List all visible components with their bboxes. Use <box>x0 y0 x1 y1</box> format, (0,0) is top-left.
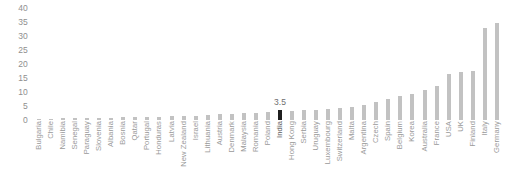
bar[interactable] <box>423 90 427 120</box>
bar[interactable] <box>85 118 89 120</box>
bar[interactable] <box>97 118 101 120</box>
bar-slot[interactable]: 3.5 <box>274 8 286 120</box>
bar-slot[interactable] <box>262 8 274 120</box>
bar-slot[interactable] <box>310 8 322 120</box>
x-axis-tick-label: Denmark <box>228 121 236 153</box>
bar[interactable] <box>483 28 487 120</box>
bar-slot[interactable] <box>214 8 226 120</box>
bar-slot[interactable] <box>33 8 45 120</box>
x-axis-slot: Qatar <box>129 121 141 187</box>
y-axis-tick: 0 <box>23 116 28 125</box>
bar[interactable] <box>49 119 53 120</box>
x-axis-tick-label: Argentina <box>360 121 368 154</box>
bar[interactable] <box>145 117 149 120</box>
x-axis-slot: Malta <box>346 121 358 187</box>
bar-slot[interactable] <box>322 8 334 120</box>
bar[interactable] <box>290 111 294 120</box>
bar[interactable] <box>435 86 439 120</box>
bar[interactable] <box>121 117 125 120</box>
x-axis-slot: India <box>274 121 286 187</box>
x-axis-tick-label: Senegal <box>71 121 79 150</box>
bar[interactable] <box>157 117 161 120</box>
bar[interactable] <box>471 71 475 120</box>
bar-slot[interactable] <box>57 8 69 120</box>
x-axis-tick-label: Bulgaria <box>35 121 43 150</box>
bar-slot[interactable] <box>190 8 202 120</box>
bar-slot[interactable] <box>238 8 250 120</box>
bar[interactable] <box>206 115 210 120</box>
bar[interactable] <box>398 96 402 120</box>
bar-slot[interactable] <box>382 8 394 120</box>
bar[interactable] <box>170 116 174 120</box>
y-axis-tick: 40 <box>18 4 28 13</box>
bar-slot[interactable] <box>153 8 165 120</box>
bar-slot[interactable] <box>45 8 57 120</box>
bar[interactable] <box>182 116 186 120</box>
bar[interactable] <box>362 105 366 120</box>
x-axis-slot: Czech <box>370 121 382 187</box>
bar-slot[interactable] <box>491 8 503 120</box>
bar-slot[interactable] <box>479 8 491 120</box>
x-axis-slot: Italy <box>479 121 491 187</box>
bar-slot[interactable] <box>406 8 418 120</box>
bar-slot[interactable] <box>129 8 141 120</box>
bar[interactable] <box>447 74 451 120</box>
bar-slot[interactable] <box>69 8 81 120</box>
bar[interactable] <box>254 113 258 120</box>
x-axis-tick-label: Qatar <box>132 121 140 141</box>
bar-slot[interactable] <box>455 8 467 120</box>
bar-slot[interactable] <box>93 8 105 120</box>
bar-slot[interactable] <box>250 8 262 120</box>
bar-slot[interactable] <box>334 8 346 120</box>
x-axis-slot: Australia <box>419 121 431 187</box>
bar-highlighted[interactable] <box>278 110 283 120</box>
bar-slot[interactable] <box>166 8 178 120</box>
bar[interactable] <box>338 108 342 120</box>
x-axis-tick-label: Chile <box>47 121 55 139</box>
bar-slot[interactable] <box>105 8 117 120</box>
bar-slot[interactable] <box>419 8 431 120</box>
bar-slot[interactable] <box>202 8 214 120</box>
bar[interactable] <box>326 109 330 120</box>
x-axis-tick-label: Bosnia <box>120 121 128 145</box>
bar-slot[interactable] <box>358 8 370 120</box>
bar[interactable] <box>410 94 414 120</box>
x-axis-slot: Argentina <box>358 121 370 187</box>
bar-slot[interactable] <box>394 8 406 120</box>
y-axis-tick: 20 <box>18 60 28 69</box>
bar-slot[interactable] <box>370 8 382 120</box>
bar-slot[interactable] <box>467 8 479 120</box>
bar-slot[interactable] <box>81 8 93 120</box>
x-axis-tick-label: Namibia <box>59 121 67 150</box>
bar[interactable] <box>109 118 113 120</box>
bar-slot[interactable] <box>286 8 298 120</box>
bar-slot[interactable] <box>178 8 190 120</box>
bar[interactable] <box>194 116 198 120</box>
x-axis-slot: Paraguay <box>81 121 93 187</box>
y-axis-tick: 25 <box>18 46 28 55</box>
bar-slot[interactable] <box>141 8 153 120</box>
bar[interactable] <box>302 110 306 120</box>
bar-slot[interactable] <box>431 8 443 120</box>
bar[interactable] <box>495 23 499 120</box>
bar[interactable] <box>314 110 318 120</box>
bar[interactable] <box>266 112 270 120</box>
bar-slot[interactable] <box>117 8 129 120</box>
x-axis-slot: Senegal <box>69 121 81 187</box>
bar[interactable] <box>386 99 390 120</box>
bar[interactable] <box>218 114 222 120</box>
bar-slot[interactable] <box>443 8 455 120</box>
bar-series: 3.5 <box>33 8 503 120</box>
bar-slot[interactable] <box>298 8 310 120</box>
bar-slot[interactable] <box>226 8 238 120</box>
bar-value-label: 3.5 <box>274 98 286 107</box>
bar[interactable] <box>374 102 378 120</box>
y-axis-tick: 10 <box>18 88 28 97</box>
x-axis-tick-label: Hong Kong <box>288 121 296 160</box>
x-axis-slot: Denmark <box>226 121 238 187</box>
bar[interactable] <box>230 114 234 120</box>
bar[interactable] <box>459 72 463 120</box>
bar[interactable] <box>242 113 246 120</box>
bar-slot[interactable] <box>346 8 358 120</box>
bar[interactable] <box>350 107 354 120</box>
